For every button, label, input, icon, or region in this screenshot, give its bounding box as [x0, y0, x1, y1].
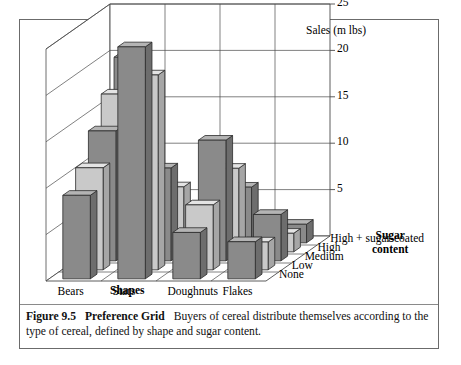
y-axis-title: Sales (m lbs) — [306, 24, 366, 36]
y-tick-label: 15 — [337, 89, 349, 101]
y-tick-label: 10 — [337, 135, 349, 147]
z-axis-title-line1: Sugar — [376, 229, 405, 241]
y-tick-label: 5 — [337, 182, 343, 194]
figure-root: Sales (m lbs) 25 20 15 10 5 High + sugar… — [0, 0, 461, 365]
figure-title: Preference Grid — [85, 310, 165, 323]
figure-number: Figure 9.5 — [26, 310, 76, 323]
figure-caption: Figure 9.5Preference GridBuyers of cerea… — [26, 309, 433, 339]
z-axis-label-none: None — [279, 268, 304, 280]
caption-divider — [20, 304, 438, 305]
chart-3d-bar: Sales (m lbs) 25 20 15 10 5 High + sugar… — [0, 0, 461, 300]
x-axis-label-flakes: Flakes — [223, 285, 253, 297]
z-axis-title-line2: content — [372, 243, 408, 255]
y-tick-label: 25 — [337, 0, 349, 8]
x-axis-title: Shapes — [110, 284, 145, 296]
x-axis-label-bears: Bears — [58, 285, 84, 297]
z-axis-title: Sugar content — [372, 229, 408, 256]
x-axis-label-doughnuts: Doughnuts — [168, 285, 218, 297]
y-tick-label: 20 — [337, 42, 349, 54]
